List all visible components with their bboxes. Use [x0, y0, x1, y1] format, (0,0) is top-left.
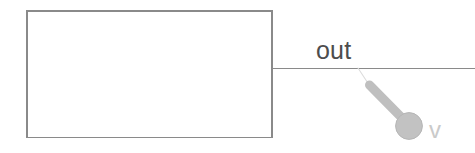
block-rectangle[interactable]	[27, 11, 272, 138]
output-wire-label: out	[316, 36, 351, 64]
diagram-canvas: out v	[0, 0, 475, 153]
diagram-vector-layer	[0, 0, 475, 153]
probe-annotation-label: v	[429, 117, 441, 143]
probe-shaft-icon[interactable]	[370, 85, 405, 120]
probe-head-icon[interactable]	[396, 113, 423, 140]
